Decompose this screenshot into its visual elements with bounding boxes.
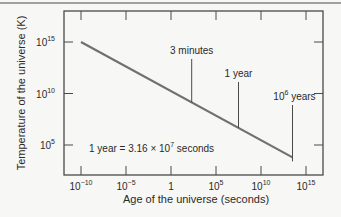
x-tick-label: 10−5 [116, 179, 135, 192]
x-axis-label: Age of the universe (seconds) [123, 193, 269, 205]
y-tick-label: 105 [40, 138, 55, 151]
conversion-note: 1 year = 3.16 × 107 seconds [89, 141, 214, 154]
annotation-label: 1 year [225, 68, 253, 79]
y-tick-label: 1010 [36, 87, 55, 100]
y-tick-label: 1015 [36, 35, 55, 48]
annotation-label: 106 years [273, 89, 315, 102]
data-line [81, 42, 293, 157]
plot-area: 10−1010−5110510101015105101010153 minute… [36, 11, 323, 192]
x-tick-label: 1015 [297, 179, 316, 192]
x-tick-label: 1010 [252, 179, 271, 192]
y-axis-label: Temperature of the universe (K) [15, 16, 27, 171]
x-tick-label: 1 [168, 181, 174, 192]
chart: 10−1010−5110510101015105101010153 minute… [0, 0, 341, 217]
x-tick-label: 105 [208, 179, 223, 192]
annotation-label: 3 minutes [170, 45, 213, 56]
x-tick-label: 10−10 [70, 179, 93, 192]
